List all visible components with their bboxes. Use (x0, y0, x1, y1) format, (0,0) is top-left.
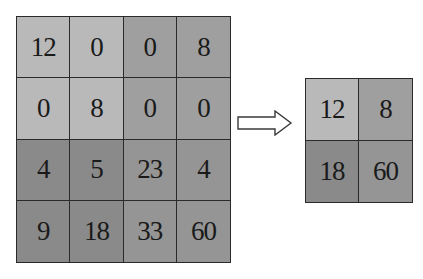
output-cell: 60 (359, 141, 412, 203)
input-cell: 5 (70, 140, 123, 201)
input-cell: 18 (70, 201, 123, 262)
input-cell: 0 (70, 17, 123, 78)
output-cell: 12 (306, 79, 359, 141)
output-cell: 8 (359, 79, 412, 141)
input-cell: 12 (17, 17, 70, 78)
input-cell: 0 (177, 78, 230, 139)
input-cell: 23 (124, 140, 177, 201)
input-cell: 8 (70, 78, 123, 139)
input-cell: 0 (17, 78, 70, 139)
right-arrow-icon (237, 110, 293, 136)
input-cell: 8 (177, 17, 230, 78)
input-cell: 0 (124, 17, 177, 78)
input-cell: 60 (177, 201, 230, 262)
pooled-output-matrix: 12 8 18 60 (305, 78, 413, 203)
input-cell: 33 (124, 201, 177, 262)
input-matrix: 12 0 0 8 0 8 0 0 4 5 23 4 9 18 33 60 (16, 16, 231, 263)
input-cell: 4 (177, 140, 230, 201)
input-cell: 0 (124, 78, 177, 139)
input-cell: 9 (17, 201, 70, 262)
input-cell: 4 (17, 140, 70, 201)
output-cell: 18 (306, 141, 359, 203)
